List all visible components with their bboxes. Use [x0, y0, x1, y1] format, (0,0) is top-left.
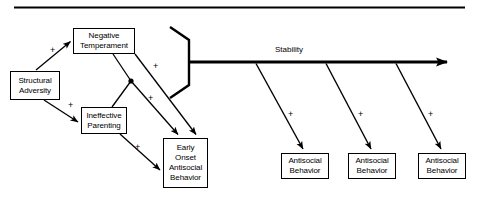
edge-temperament-to-early-onset — [135, 54, 196, 135]
stability-arrow-label: Stability — [275, 45, 303, 54]
node-antisocial-behavior-3[interactable]: Antisocial Behavior — [418, 153, 466, 179]
node-structural-adversity[interactable]: Structural Adversity — [10, 71, 60, 100]
junction-dot — [128, 78, 133, 83]
node-negative-temperament[interactable]: Negative Temperament — [73, 28, 135, 54]
node-label-line: Temperament — [80, 41, 128, 51]
node-label-line: Antisocial — [355, 156, 388, 166]
node-label-line: Antisocial — [169, 163, 202, 173]
node-label-line: Behavior — [290, 166, 321, 176]
node-label-line: Behavior — [170, 173, 201, 183]
plus-adversity-to-temperament: + — [50, 46, 55, 55]
edge-parenting-to-junction — [112, 81, 131, 107]
node-label-line: Behavior — [427, 166, 458, 176]
node-early-onset-antisocial-behavior[interactable]: Early Onset Antisocial Behavior — [163, 138, 208, 188]
plus-temperament-to-early-onset: + — [153, 62, 158, 71]
plus-stability-to-antisocial-2: + — [358, 110, 363, 119]
node-ineffective-parenting[interactable]: Ineffective Parenting — [81, 107, 127, 134]
node-label-line: Negative — [89, 31, 120, 41]
edge-stability-to-antisocial-2 — [326, 64, 371, 150]
node-antisocial-behavior-2[interactable]: Antisocial Behavior — [348, 153, 396, 179]
node-label-line: Behavior — [357, 166, 388, 176]
edge-stability-to-antisocial-1 — [256, 64, 303, 150]
edge-stability-to-antisocial-3 — [396, 64, 441, 150]
node-label-line: Structural — [18, 76, 51, 86]
edge-parenting-to-early-onset — [120, 134, 160, 170]
plus-parenting-to-early-onset: + — [135, 143, 140, 152]
edge-temperament-to-junction — [113, 54, 131, 81]
node-label-line: Early — [177, 143, 195, 153]
plus-adversity-to-parenting: + — [68, 101, 73, 110]
node-label-line: Antisocial — [288, 156, 321, 166]
edge-junction-to-early-onset — [131, 81, 178, 135]
node-label-line: Parenting — [87, 121, 120, 131]
node-label-line: Antisocial — [425, 156, 458, 166]
node-label-line: Onset — [175, 153, 196, 163]
plus-stability-to-antisocial-1: + — [288, 110, 293, 119]
node-label-line: Adversity — [19, 86, 51, 96]
plus-stability-to-antisocial-3: + — [428, 110, 433, 119]
node-antisocial-behavior-1[interactable]: Antisocial Behavior — [281, 153, 329, 179]
plus-junction-to-early-onset: + — [148, 94, 153, 103]
node-label-line: Ineffective — [86, 111, 121, 121]
causal-path-diagram: Structural Adversity Negative Temperamen… — [0, 0, 479, 207]
grouping-brace — [170, 27, 189, 98]
